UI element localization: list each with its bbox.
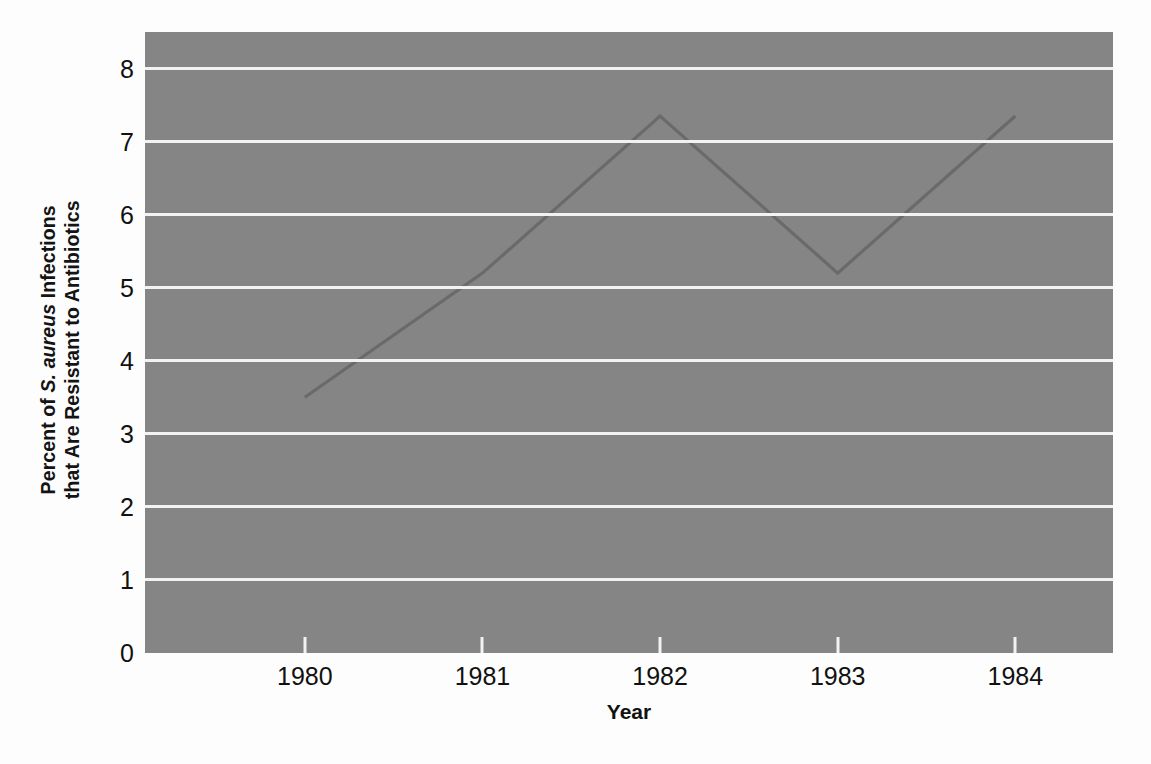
gridline [145,578,1113,581]
y-tick-label: 1 [100,565,134,594]
x-tick-mark [303,637,306,653]
x-tick-mark [836,637,839,653]
gridline [145,505,1113,508]
gridline [145,213,1113,216]
y-axis-title: Percent of S. aureus Infections that Are… [22,0,98,700]
x-tick-mark [481,637,484,653]
y-tick-label: 7 [100,127,134,156]
data-series-line [145,32,1113,653]
y-axis-title-line2: that Are Resistant to Antibiotics [60,201,82,500]
y-axis-tick-labels: 012345678 [96,0,134,764]
y-tick-label: 2 [100,492,134,521]
x-tick-label: 1981 [455,662,511,691]
gridline [145,359,1113,362]
cutoff-title-text [0,0,1151,8]
y-tick-label: 6 [100,200,134,229]
x-tick-label: 1984 [987,662,1043,691]
gridline [145,286,1113,289]
y-tick-label: 5 [100,273,134,302]
y-tick-label: 4 [100,346,134,375]
y-tick-label: 8 [100,54,134,83]
plot-area [145,32,1113,653]
gridline [145,432,1113,435]
x-tick-mark [1014,637,1017,653]
x-tick-mark [659,637,662,653]
x-axis-title: Year [145,700,1113,724]
x-axis-tick-labels: 19801981198219831984 [145,662,1113,702]
y-tick-label: 3 [100,419,134,448]
gridline [145,67,1113,70]
y-tick-label: 0 [100,639,134,668]
y-axis-title-suffix: Infections [36,205,58,304]
gridline [145,140,1113,143]
x-tick-label: 1982 [632,662,688,691]
y-axis-title-prefix: Percent of [36,393,58,495]
x-tick-label: 1983 [810,662,866,691]
x-tick-label: 1980 [277,662,333,691]
y-axis-title-species: S. aureus [36,304,58,393]
chart-figure: Percent of S. aureus Infections that Are… [0,0,1151,764]
